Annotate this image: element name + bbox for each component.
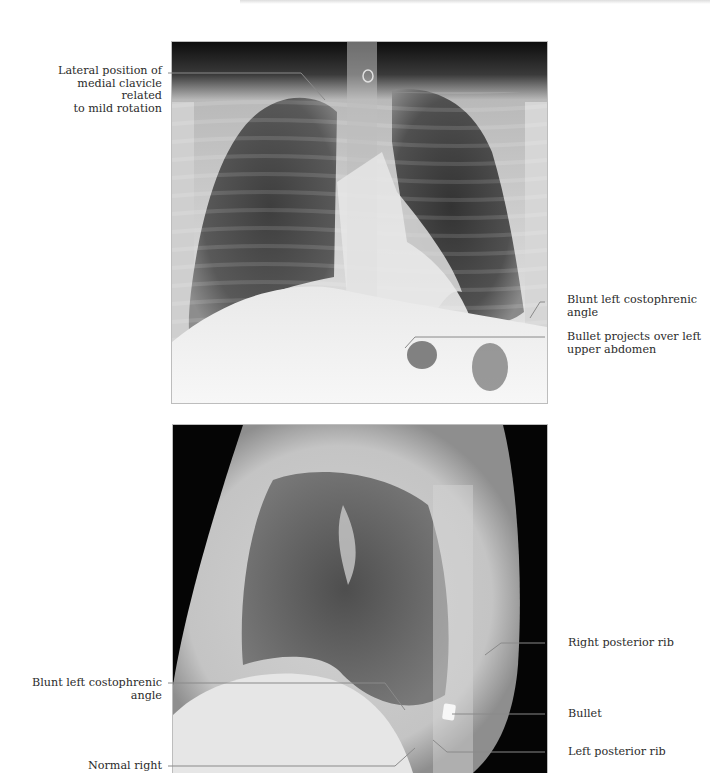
- label-line: Normal right: [30, 760, 162, 773]
- label-bullet: Bullet: [568, 708, 713, 721]
- label-line: Left posterior rib: [568, 746, 713, 759]
- label-line: Bullet projects over left: [567, 331, 713, 344]
- label-bullet-upper-abdomen: Bullet projects over left upper abdomen: [567, 331, 713, 356]
- label-right-posterior-rib: Right posterior rib: [568, 637, 713, 650]
- label-line: Right posterior rib: [568, 637, 713, 650]
- label-clavicle: Lateral position of medial clavicle rela…: [40, 65, 162, 115]
- label-line: angle: [567, 307, 713, 320]
- page-header-strip: [240, 0, 710, 4]
- lateral-chest-xray: [172, 424, 548, 773]
- label-line: Lateral position of: [40, 65, 162, 78]
- label-line: medial clavicle related: [40, 78, 162, 103]
- label-line: upper abdomen: [567, 344, 713, 357]
- label-line: Bullet: [568, 708, 713, 721]
- label-left-posterior-rib: Left posterior rib: [568, 746, 713, 759]
- label-line: Blunt left costophrenic: [567, 294, 713, 307]
- label-line: Blunt left costophrenic: [30, 677, 162, 690]
- label-line: to mild rotation: [40, 103, 162, 116]
- frontal-chest-xray: [171, 41, 548, 404]
- label-line: angle: [30, 690, 162, 703]
- label-blunt-costophrenic-angle-lateral: Blunt left costophrenic angle: [30, 677, 162, 702]
- label-blunt-costophrenic-angle-frontal: Blunt left costophrenic angle: [567, 294, 713, 319]
- label-normal-right: Normal right: [30, 760, 162, 773]
